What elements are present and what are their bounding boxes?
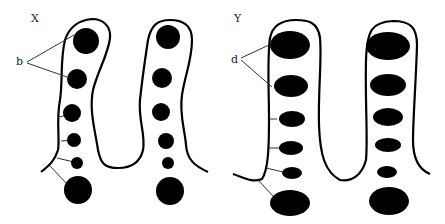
panel-y-pointers [241,45,283,196]
diagram: X b Y d [0,0,445,224]
panel-y-dots [270,31,410,216]
panel-x-outline [41,19,208,172]
diagram-drawing [0,0,445,224]
panel-x-dots [63,25,184,205]
